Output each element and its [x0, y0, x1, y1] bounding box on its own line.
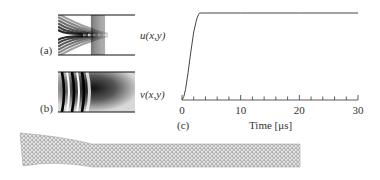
- response-curve: [182, 13, 358, 100]
- deformed-mesh: [20, 133, 300, 167]
- u-field-image: [58, 14, 135, 56]
- panel-a-label: (a): [40, 44, 52, 56]
- x-tick-label: 0: [174, 104, 190, 116]
- time-response-plot: [182, 13, 358, 100]
- x-tick-label: 30: [350, 104, 366, 116]
- figure-canvas: [0, 0, 380, 180]
- panel-c-label: (c): [177, 119, 189, 131]
- x-tick-label: 20: [291, 104, 307, 116]
- v-field-label: v(x,y): [140, 88, 165, 100]
- x-axis-label: Time [μs]: [249, 119, 292, 131]
- v-field-image: [58, 72, 135, 112]
- u-field-label: u(x,y): [140, 29, 165, 41]
- panel-b-label: (b): [40, 102, 53, 114]
- x-tick-label: 10: [233, 104, 249, 116]
